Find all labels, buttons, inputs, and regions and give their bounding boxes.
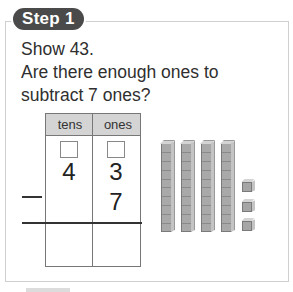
step-badge: Step 1	[13, 8, 84, 30]
regroup-box-ones[interactable]	[107, 141, 125, 158]
regroup-box-tens[interactable]	[60, 141, 78, 158]
problem-prompt: Show 43. Are there enough ones to subtra…	[21, 38, 281, 107]
answer-cell-ones[interactable]	[93, 223, 141, 267]
tens-rod-1	[161, 143, 172, 232]
minus-sign	[22, 196, 42, 198]
prompt-line-3: subtract 7 ones?	[21, 84, 281, 107]
header-ones: ones	[94, 114, 142, 136]
answer-cell-tens[interactable]	[45, 223, 92, 267]
header-tens: tens	[46, 114, 94, 136]
place-value-table: tens ones 4 3 7	[45, 113, 141, 267]
tens-rod-4	[221, 143, 232, 232]
tens-rod-3	[201, 143, 212, 232]
prompt-line-1: Show 43.	[21, 38, 281, 61]
ones-cube-1	[242, 182, 252, 192]
ones-cube-3	[242, 221, 252, 231]
digit-ones-subtrahend: 7	[101, 189, 131, 215]
subtraction-line	[22, 222, 142, 224]
tens-rod-2	[181, 143, 192, 232]
prompt-line-2: Are there enough ones to	[21, 61, 281, 84]
ones-cube-2	[242, 202, 252, 212]
digit-ones-top: 3	[101, 159, 131, 185]
next-step-tab	[26, 288, 70, 292]
table-header: tens ones	[45, 113, 141, 136]
digit-tens-top: 4	[54, 159, 84, 185]
